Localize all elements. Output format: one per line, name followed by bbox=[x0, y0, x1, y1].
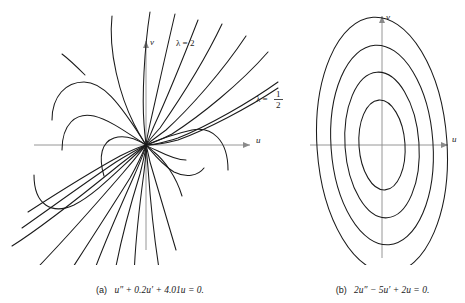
trajectory-curve bbox=[146, 36, 246, 145]
caption-a-equation: u″ + 0.2u′ + 4.01u = 0. bbox=[109, 285, 203, 295]
trajectory-group-a bbox=[12, 12, 278, 265]
caption-b-tag: (b) bbox=[336, 285, 347, 295]
lambda-2-label: λ = 2 bbox=[176, 38, 194, 48]
trajectory-curve bbox=[112, 145, 146, 265]
axes-b: u v bbox=[310, 12, 457, 258]
caption-a: (a) u″ + 0.2u′ + 4.01u = 0. bbox=[0, 285, 300, 295]
x-axis-label-b: u bbox=[452, 134, 457, 144]
x-axis-arrowhead-a bbox=[243, 142, 250, 148]
panel-a: u v λ = 2 λ = 1 2 (a) u″ + 0.2u′ + 4.01u… bbox=[0, 0, 300, 303]
annotation-lambda-2: λ = 2 bbox=[176, 38, 194, 48]
figure-container: u v λ = 2 λ = 1 2 (a) u″ + 0.2u′ + 4.01u… bbox=[0, 0, 465, 303]
x-axis-label-a: u bbox=[256, 135, 261, 145]
lambda-half-denominator: 2 bbox=[276, 100, 281, 110]
phase-portrait-a: u v λ = 2 λ = 1 2 bbox=[0, 0, 300, 265]
trajectory-curve bbox=[101, 137, 146, 176]
trajectory-curve bbox=[88, 145, 146, 265]
annotation-lambda-half: λ = 1 2 bbox=[256, 89, 283, 110]
trajectory-curve bbox=[40, 145, 146, 265]
y-axis-label-a: v bbox=[150, 37, 154, 47]
panel-b: u v (b) 2u″ − 5u′ + 2u = 0. bbox=[300, 0, 465, 303]
caption-a-tag: (a) bbox=[96, 285, 107, 295]
caption-b: (b) 2u″ − 5u′ + 2u = 0. bbox=[300, 285, 465, 295]
caption-b-equation: 2u″ − 5u′ + 2u = 0. bbox=[349, 285, 429, 295]
trajectory-curve bbox=[143, 12, 150, 145]
trajectory-curve bbox=[64, 145, 146, 265]
phase-portrait-b: u v bbox=[300, 0, 465, 265]
trajectory-curve bbox=[62, 54, 85, 75]
lambda-half-label: λ = bbox=[256, 94, 268, 104]
trajectory-curve bbox=[146, 145, 160, 265]
trajectory-curve bbox=[146, 145, 182, 196]
lambda-half-numerator: 1 bbox=[276, 89, 281, 99]
